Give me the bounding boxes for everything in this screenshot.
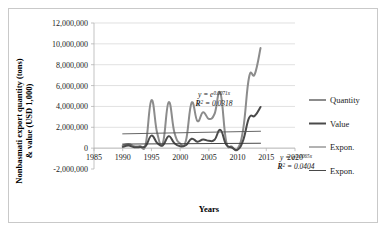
- y-tick-label: 12,000,000: [52, 19, 88, 28]
- y-axis-title-line1: Nonbasmati export quantity (tons): [14, 58, 24, 184]
- y-tick-label: 2,000,000: [56, 123, 88, 132]
- legend-label-2: Expon.: [330, 142, 354, 152]
- y-tick-label: 8,000,000: [56, 61, 88, 70]
- data-series-group: [123, 48, 261, 150]
- x-tick-label: 1995: [143, 153, 159, 162]
- x-tick-label: 2010: [230, 153, 246, 162]
- quantity-trend-equation-line1: y = e0.0071x: [197, 90, 231, 99]
- x-tick-label: 2015: [258, 153, 274, 162]
- legend-label-1: Value: [330, 119, 350, 129]
- chart-legend: QuantityValueExpon.Expon.: [309, 95, 360, 176]
- y-tick-label: -2,000,000: [53, 165, 88, 174]
- x-tick-label: 1985: [86, 153, 102, 162]
- y-tick-label: 6,000,000: [56, 82, 88, 91]
- y-tick-labels: -2,000,00002,000,0004,000,0006,000,0008,…: [52, 19, 88, 174]
- x-tick-label: 1990: [115, 153, 131, 162]
- y-axis-title-line2: & value (USD 1,000): [24, 84, 34, 159]
- series-quantity: [123, 48, 261, 150]
- figure-container: -2,000,00002,000,0004,000,0006,000,0008,…: [8, 8, 378, 223]
- quantity-trend-equation-line2: R2 = 0.0318: [194, 99, 232, 108]
- y-tick-label: 0: [84, 144, 88, 153]
- legend-label-0: Quantity: [330, 95, 360, 105]
- legend-label-3: Expon.: [330, 166, 354, 176]
- chart-canvas: -2,000,00002,000,0004,000,0006,000,0008,…: [9, 9, 379, 224]
- value-trend-equation-line2: R2 = 0.0404: [276, 162, 314, 171]
- series-expon-: [123, 131, 261, 134]
- x-tick-labels: 19851990199520002005201020152020: [86, 153, 303, 162]
- x-tick-label: 2005: [201, 153, 217, 162]
- y-tick-label: 4,000,000: [56, 102, 88, 111]
- gridlines-group: [91, 23, 295, 169]
- x-axis-title: Years: [199, 204, 220, 214]
- x-tick-label: 2000: [172, 153, 188, 162]
- y-tick-label: 10,000,000: [52, 40, 88, 49]
